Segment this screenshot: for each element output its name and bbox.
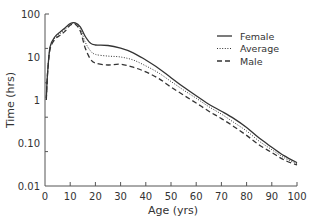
x-tick-label: 20 <box>89 191 102 202</box>
x-tick-label: 70 <box>215 191 228 202</box>
legend: FemaleAverageMale <box>217 31 279 67</box>
x-tick-labels: 0102030405060708090100 <box>42 191 307 202</box>
legend-label-male: Male <box>240 56 263 67</box>
y-tick-label: 0.01 <box>18 181 40 192</box>
y-tick-label: 10 <box>27 52 40 63</box>
x-tick-label: 50 <box>165 191 178 202</box>
x-tick-label: 80 <box>240 191 253 202</box>
x-tick-label: 30 <box>114 191 127 202</box>
y-axis-title: Time (hrs) <box>4 72 17 129</box>
chart: 1001010.100.01 0102030405060708090100 Ti… <box>0 0 312 221</box>
x-tick-label: 0 <box>42 191 48 202</box>
y-tick-label: 0.10 <box>18 138 40 149</box>
y-tick-labels: 1001010.100.01 <box>18 9 40 192</box>
y-tick-label: 100 <box>21 9 40 20</box>
x-tick-label: 10 <box>64 191 77 202</box>
y-tick-label: 1 <box>34 95 40 106</box>
x-tick-label: 90 <box>265 191 278 202</box>
legend-label-female: Female <box>240 31 275 42</box>
x-axis-title: Age (yrs) <box>148 204 198 217</box>
x-tick-label: 60 <box>190 191 203 202</box>
x-tick-label: 100 <box>287 191 306 202</box>
x-tick-label: 40 <box>139 191 152 202</box>
legend-label-average: Average <box>240 43 279 54</box>
